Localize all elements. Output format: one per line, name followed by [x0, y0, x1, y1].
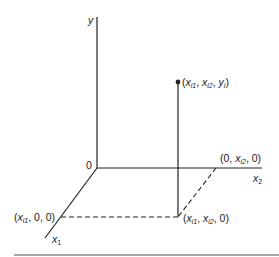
x1-axis	[45, 168, 97, 238]
x2-axis-label: x2	[252, 172, 262, 185]
dashed-x2-projection	[178, 168, 216, 217]
data-point-marker	[176, 80, 181, 85]
coordinate-diagram: y 0 x2 x1 (xi1, xi2, yi) (0, xi2, 0) (xi…	[0, 0, 279, 257]
base-point-label: (xi1, xi2, 0)	[183, 212, 229, 225]
x2-point-label: (0, xi2, 0)	[220, 152, 261, 165]
y-axis-label: y	[87, 14, 94, 26]
data-point-label: (xi1, xi2, yi)	[182, 76, 229, 89]
x1-axis-label: x1	[51, 233, 61, 246]
diagram-svg: y 0 x2 x1 (xi1, xi2, yi) (0, xi2, 0) (xi…	[0, 0, 279, 257]
origin-label: 0	[86, 159, 92, 171]
x1-point-label: (xi1, 0, 0)	[14, 211, 55, 224]
